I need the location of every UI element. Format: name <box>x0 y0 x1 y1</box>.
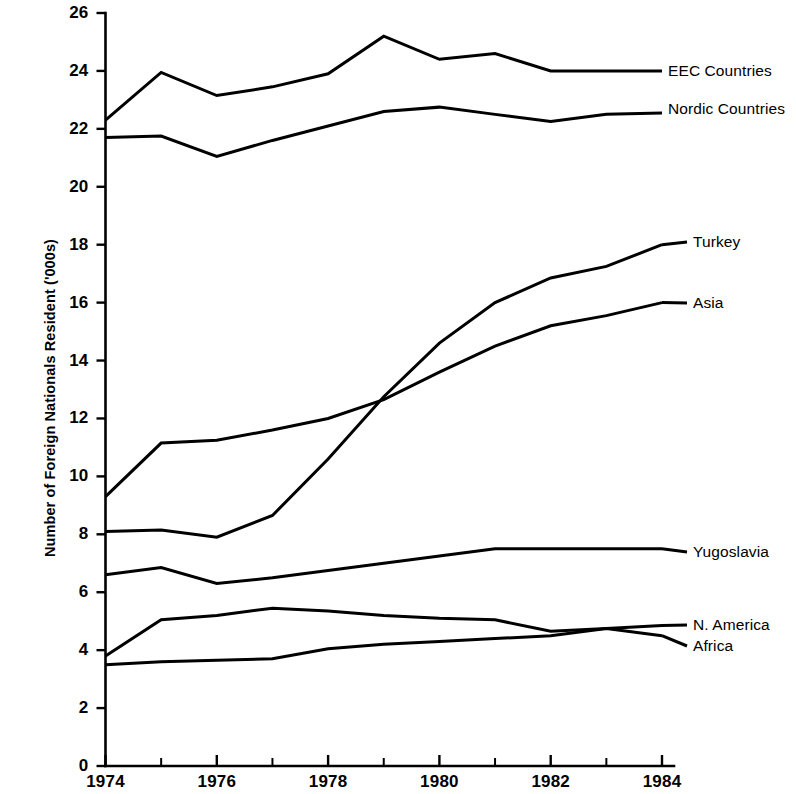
leader-line-yugoslavia <box>662 549 687 552</box>
leader-line-n-america <box>662 625 687 626</box>
series-label-eec-countries: EEC Countries <box>668 62 772 80</box>
x-tick-label: 1976 <box>193 772 241 792</box>
series-line-africa <box>106 628 663 664</box>
series-line-yugoslavia <box>106 549 663 584</box>
y-tick-label: 10 <box>41 466 89 486</box>
x-tick-label: 1982 <box>527 772 575 792</box>
series-line-asia <box>106 303 663 497</box>
series-line-turkey <box>106 245 663 538</box>
series-label-nordic-countries: Nordic Countries <box>668 100 785 118</box>
series-label-yugoslavia: Yugoslavia <box>693 543 769 561</box>
y-axis-ticks <box>97 13 106 766</box>
series-line-nordic-countries <box>106 107 663 156</box>
series-group <box>106 36 663 664</box>
y-tick-label: 20 <box>41 177 89 197</box>
leader-lines <box>662 242 687 646</box>
series-label-turkey: Turkey <box>693 233 740 251</box>
series-line-eec-countries <box>106 36 663 120</box>
leader-line-africa <box>662 636 687 646</box>
x-axis-ticks <box>106 755 663 766</box>
y-tick-label: 18 <box>41 235 89 255</box>
y-axis-title: Number of Foreign Nationals Resident ('0… <box>42 233 58 563</box>
series-label-n-america: N. America <box>693 616 770 634</box>
chart-canvas <box>0 0 796 794</box>
y-tick-label: 14 <box>41 351 89 371</box>
y-tick-label: 12 <box>41 408 89 428</box>
x-tick-label: 1974 <box>82 772 130 792</box>
y-tick-label: 4 <box>41 640 89 660</box>
series-label-africa: Africa <box>693 637 733 655</box>
line-chart: Number of Foreign Nationals Resident ('0… <box>0 0 796 794</box>
y-tick-label: 8 <box>41 524 89 544</box>
y-tick-label: 26 <box>41 3 89 23</box>
y-tick-label: 24 <box>41 61 89 81</box>
x-tick-label: 1984 <box>638 772 686 792</box>
series-label-asia: Asia <box>693 294 724 312</box>
x-tick-label: 1980 <box>415 772 463 792</box>
leader-line-turkey <box>662 242 687 245</box>
y-tick-label: 16 <box>41 293 89 313</box>
y-tick-label: 6 <box>41 582 89 602</box>
y-tick-label: 2 <box>41 698 89 718</box>
x-tick-label: 1978 <box>304 772 352 792</box>
y-tick-label: 22 <box>41 119 89 139</box>
